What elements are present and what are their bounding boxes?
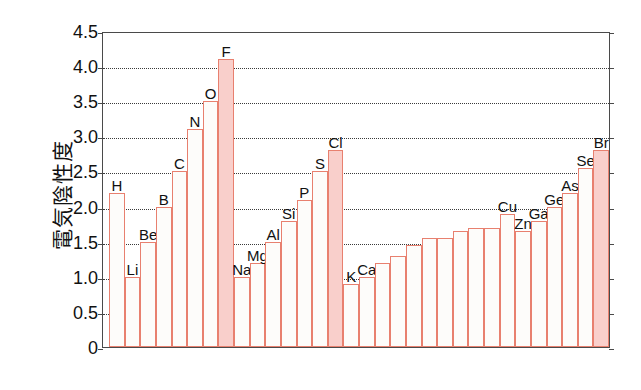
- y-tickmark: [98, 33, 103, 34]
- y-tick-label: 0.5: [73, 302, 98, 323]
- y-tick-label: 3.0: [73, 127, 98, 148]
- bar-label-li: Li: [127, 262, 139, 277]
- y-tickmark-right: [609, 279, 614, 280]
- bar-label-se: Se: [576, 153, 594, 168]
- y-tickmark: [98, 103, 103, 104]
- y-tick-label: 4.5: [73, 22, 98, 43]
- bar-label-p: P: [299, 185, 309, 200]
- electronegativity-bar-chart: 電気陰性度 00.51.01.52.02.53.03.54.04.5 HLiBe…: [0, 0, 641, 390]
- y-tickmark: [98, 314, 103, 315]
- y-tickmark: [98, 209, 103, 210]
- bar-ni: [484, 228, 500, 347]
- bar-mn: [437, 238, 453, 347]
- bar-br: [593, 150, 609, 347]
- bar-co: [468, 228, 484, 347]
- bar-h: [109, 193, 125, 347]
- y-tick-label: 3.5: [73, 92, 98, 113]
- bar-na: [234, 277, 250, 347]
- y-tickmark-right: [609, 33, 614, 34]
- y-tickmark-right: [609, 138, 614, 139]
- bar-s: [312, 171, 328, 347]
- bar-k: [343, 284, 359, 347]
- bar-mg: [250, 263, 266, 347]
- bar-be: [140, 242, 156, 347]
- bar-label-k: K: [346, 269, 356, 284]
- y-tickmark: [98, 349, 103, 350]
- y-tick-label: 1.5: [73, 232, 98, 253]
- y-tick-label: 1.0: [73, 267, 98, 288]
- bar-label-s: S: [315, 156, 325, 171]
- bar-ca: [359, 277, 375, 347]
- bar-c: [172, 171, 188, 347]
- y-tickmark-right: [609, 103, 614, 104]
- y-tick-label: 2.5: [73, 162, 98, 183]
- y-tickmark: [98, 244, 103, 245]
- bar-label-cu: Cu: [498, 199, 517, 214]
- bar-label-n: N: [190, 114, 201, 129]
- bar-ge: [547, 207, 563, 347]
- bar-label-cl: Cl: [328, 135, 342, 150]
- bar-label-h: H: [111, 178, 122, 193]
- bar-f: [218, 59, 234, 347]
- bar-label-as: As: [561, 178, 579, 193]
- plot-area: HLiBeBCNOFNaMgAlSiPSClKCaCuZnGaGeAsSeBr: [102, 32, 610, 348]
- bar-label-c: C: [174, 156, 185, 171]
- bar-zn: [515, 231, 531, 347]
- bar-v: [406, 245, 422, 347]
- bar-label-si: Si: [282, 206, 295, 221]
- bar-label-b: B: [159, 192, 169, 207]
- y-tickmark-right: [609, 244, 614, 245]
- bar-o: [203, 101, 219, 347]
- bar-label-al: Al: [266, 227, 279, 242]
- bar-n: [187, 129, 203, 347]
- y-tickmark: [98, 173, 103, 174]
- bar-label-br: Br: [594, 135, 609, 150]
- bar-cl: [328, 150, 344, 347]
- y-tickmark-right: [609, 68, 614, 69]
- y-tick-label: 4.0: [73, 57, 98, 78]
- y-tickmark-right: [609, 173, 614, 174]
- bar-ga: [531, 221, 547, 347]
- bar-label-be: Be: [139, 227, 157, 242]
- bar-label-o: O: [205, 86, 217, 101]
- bar-p: [297, 200, 313, 347]
- y-axis-tick-labels: 00.51.01.52.02.53.03.54.04.5: [46, 0, 98, 390]
- bar-li: [125, 277, 141, 347]
- bar-cr: [422, 238, 438, 347]
- y-tickmark: [98, 138, 103, 139]
- bar-fe: [453, 231, 469, 347]
- y-tickmark: [98, 68, 103, 69]
- bar-as: [562, 193, 578, 347]
- y-tickmark: [98, 279, 103, 280]
- bar-al: [265, 242, 281, 347]
- y-tick-label: 0: [88, 338, 98, 359]
- bar-label-na: Na: [232, 262, 251, 277]
- bar-series: HLiBeBCNOFNaMgAlSiPSClKCaCuZnGaGeAsSeBr: [109, 33, 607, 347]
- bar-label-f: F: [222, 44, 231, 59]
- bar-cu: [500, 214, 516, 347]
- bar-si: [281, 221, 297, 347]
- y-tick-label: 2.0: [73, 197, 98, 218]
- y-tickmark-right: [609, 209, 614, 210]
- y-tickmark-right: [609, 349, 614, 350]
- y-tickmark-right: [609, 314, 614, 315]
- bar-label-ca: Ca: [357, 262, 376, 277]
- bar-b: [156, 207, 172, 347]
- bar-sc: [375, 263, 391, 347]
- bar-se: [578, 168, 594, 347]
- bar-ti: [390, 256, 406, 347]
